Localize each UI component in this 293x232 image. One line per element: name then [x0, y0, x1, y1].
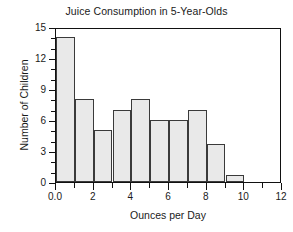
plot-area	[55, 28, 281, 183]
y-tick-label: 12	[6, 54, 46, 64]
x-tick-label: 2	[73, 192, 113, 202]
x-tick-minor	[187, 183, 188, 188]
y-tick-label: 15	[6, 23, 46, 33]
histogram-bar	[75, 99, 94, 182]
x-tick-label: 8	[186, 192, 226, 202]
x-tick-major	[243, 183, 244, 190]
histogram-bar	[56, 37, 75, 182]
y-tick-label: 0	[6, 178, 46, 188]
chart-title: Juice Consumption in 5-Year-Olds	[0, 5, 293, 17]
histogram-bar	[94, 130, 113, 182]
x-tick-minor	[149, 183, 150, 188]
x-tick-label: 10	[223, 192, 263, 202]
histogram-bar	[169, 120, 188, 182]
x-tick-major	[55, 183, 56, 190]
x-tick-minor	[225, 183, 226, 188]
x-axis-title: Ounces per Day	[55, 209, 281, 221]
x-tick-major	[206, 183, 207, 190]
y-tick-label: 6	[6, 116, 46, 126]
x-tick-major	[130, 183, 131, 190]
y-tick-label: 9	[6, 85, 46, 95]
histogram-bar	[150, 120, 169, 182]
x-tick-label: 12	[261, 192, 293, 202]
x-tick-label: 0.0	[35, 192, 75, 202]
histogram-bar	[131, 99, 150, 182]
x-tick-major	[168, 183, 169, 190]
histogram-bar	[188, 110, 207, 182]
y-tick-label: 3	[6, 147, 46, 157]
histogram-bar	[207, 144, 226, 182]
x-tick-label: 4	[110, 192, 150, 202]
x-tick-major	[281, 183, 282, 190]
x-tick-major	[93, 183, 94, 190]
y-axis-title: Number of Children	[18, 30, 30, 180]
x-tick-label: 6	[148, 192, 188, 202]
chart-figure: Juice Consumption in 5-Year-Olds Number …	[0, 0, 293, 232]
x-tick-minor	[262, 183, 263, 188]
histogram-bars	[56, 29, 280, 182]
histogram-bar	[113, 110, 132, 182]
x-tick-minor	[112, 183, 113, 188]
histogram-bar	[226, 175, 245, 182]
x-tick-minor	[74, 183, 75, 188]
